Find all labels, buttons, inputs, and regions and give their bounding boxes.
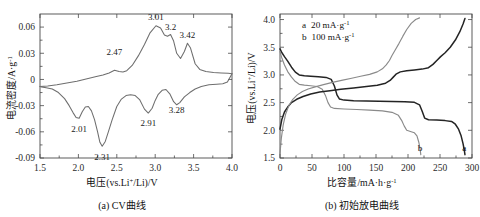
- cv-yaxis-title: 电流密度/A·g-1: [5, 56, 17, 119]
- figure-container: 1.52.02.53.03.54.00.060.030-0.03-0.06-0.…: [0, 0, 480, 217]
- cv-peak-label: 3.28: [169, 105, 185, 115]
- legend-entry-b: b100 mA·g-1: [302, 31, 355, 42]
- y-tick-label: 3.0: [263, 70, 275, 80]
- cv-trace-reduction: [40, 74, 232, 146]
- discharge-yaxis-title: 电压(vs.Li+/Li)/V: [245, 52, 258, 123]
- discharge-chart-svg: 0501001502002503004.03.53.02.52.01.5 ba …: [240, 0, 480, 217]
- discharge-trace-b: [280, 52, 421, 155]
- x-tick-label: 50: [307, 163, 317, 173]
- curve-tag-a: a: [462, 143, 466, 153]
- y-tick-label: 0.06: [18, 22, 35, 32]
- discharge-curve-tags: ba: [418, 143, 466, 153]
- cv-peak-labels: 2.473.013.23.422.012.312.913.28: [71, 12, 195, 161]
- cv-xaxis-title: 电压(vs.Li+/Li)/V: [86, 176, 157, 189]
- cv-peak-label: 3.2: [165, 22, 176, 32]
- y-tick-label: 4.0: [263, 15, 275, 25]
- discharge-legend: a20 mA·g-1 b100 mA·g-1: [302, 19, 355, 42]
- y-tick-label: 0.03: [18, 49, 35, 59]
- x-tick-label: 2.5: [111, 163, 123, 173]
- y-tick-label: 3.5: [263, 43, 275, 53]
- discharge-caption: (b) 初始放电曲线: [325, 199, 399, 212]
- panel-discharge-curve: 0501001502002503004.03.53.02.52.01.5 ba …: [240, 0, 480, 217]
- x-tick-label: 2.0: [72, 163, 84, 173]
- cv-peak-label: 2.01: [71, 124, 87, 134]
- x-tick-label: 3.5: [188, 163, 200, 173]
- x-tick-label: 3.0: [149, 163, 161, 173]
- x-tick-label: 100: [337, 163, 352, 173]
- cv-chart-svg: 1.52.02.53.03.54.00.060.030-0.03-0.06-0.…: [0, 0, 240, 217]
- discharge-xaxis-title: 比容量/mA·h·g-1: [327, 176, 396, 188]
- panel-cv-curve: 1.52.02.53.03.54.00.060.030-0.03-0.06-0.…: [0, 0, 240, 217]
- cv-peak-label: 3.42: [180, 30, 196, 40]
- cv-peak-label: 3.01: [148, 12, 164, 22]
- cv-peak-label: 2.47: [107, 47, 123, 57]
- x-tick-label: 1.5: [34, 163, 46, 173]
- y-tick-label: -0.03: [15, 101, 35, 111]
- discharge-trace-a: [280, 49, 465, 155]
- cv-tick-labels: 1.52.02.53.03.54.00.060.030-0.03-0.06-0.…: [15, 22, 238, 173]
- discharge-tick-labels: 0501001502002503004.03.53.02.52.01.5: [263, 15, 479, 173]
- y-tick-label: 2.5: [263, 98, 275, 108]
- x-tick-label: 250: [433, 163, 448, 173]
- x-tick-label: 0: [278, 163, 283, 173]
- x-tick-label: 200: [401, 163, 416, 173]
- x-tick-label: 4.0: [226, 163, 238, 173]
- x-tick-label: 150: [369, 163, 384, 173]
- y-tick-label: 2.0: [263, 126, 275, 136]
- cv-caption: (a) CV曲线: [98, 199, 146, 212]
- x-tick-label: 300: [465, 163, 480, 173]
- curve-tag-b: b: [418, 143, 423, 153]
- discharge-trace-b: [280, 18, 420, 154]
- y-tick-label: -0.09: [15, 153, 35, 163]
- y-tick-label: -0.06: [15, 127, 35, 137]
- discharge-curves: [280, 18, 465, 155]
- cv-curves: [40, 26, 232, 146]
- cv-peak-label: 2.31: [94, 152, 110, 162]
- cv-trace-oxidation: [40, 26, 232, 87]
- legend-entry-a: a20 mA·g-1: [302, 19, 350, 30]
- y-tick-label: 1.5: [263, 153, 275, 163]
- cv-peak-label: 2.91: [140, 118, 156, 128]
- y-tick-label: 0: [30, 75, 35, 85]
